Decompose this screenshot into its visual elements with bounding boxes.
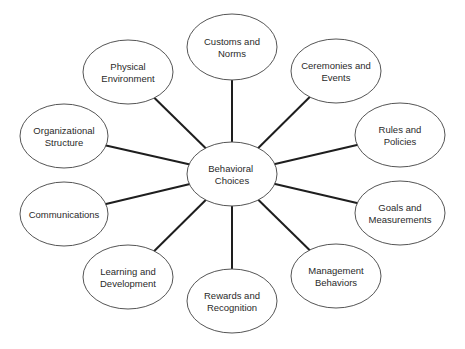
node-label-line-2: Norms	[218, 48, 246, 59]
node-label-line-2: Recognition	[207, 302, 257, 313]
node-label-line-1: Ceremonies and	[301, 60, 371, 71]
node-label-line-2: Policies	[384, 136, 417, 147]
node-customs-and-norms: Customs andNorms	[187, 14, 277, 80]
node-label: Learning andDevelopment	[100, 266, 156, 289]
node-label-line-1: Rewards and	[204, 290, 260, 301]
node-label-line-2: Development	[100, 278, 156, 289]
node-rewards-and-recognition: Rewards andRecognition	[187, 269, 277, 333]
node-label-line-1: Customs and	[204, 36, 260, 47]
behavioral-choices-diagram: Customs andNormsCeremonies andEventsRule…	[0, 0, 465, 349]
center-label: Behavioral Choices	[208, 163, 256, 186]
node-label-line-2: Environment	[101, 73, 155, 84]
node-label-line-1: Goals and	[378, 202, 421, 213]
node-label: Rewards andRecognition	[204, 290, 260, 313]
node-physical-environment: PhysicalEnvironment	[83, 40, 173, 104]
node-label: ManagementBehaviors	[308, 265, 364, 288]
node-label-line-2: Structure	[45, 137, 84, 148]
node-label: Rules andPolicies	[379, 124, 422, 147]
center-node-behavioral-choices: Behavioral Choices	[187, 142, 277, 206]
node-communications: Communications	[20, 182, 108, 246]
node-label-line-2: Events	[321, 72, 350, 83]
node-goals-and-measurements: Goals andMeasurements	[355, 181, 445, 245]
node-label: Communications	[29, 209, 100, 220]
node-learning-and-development: Learning andDevelopment	[83, 245, 173, 309]
node-label-line-2: Behaviors	[315, 277, 357, 288]
center-label-line-1: Behavioral	[208, 163, 253, 174]
node-label-line-1: Physical	[110, 61, 145, 72]
node-label-line-1: Management	[308, 265, 364, 276]
node-label-line-1: Rules and	[379, 124, 422, 135]
node-label-line-1: Communications	[29, 209, 100, 220]
center-label-line-2: Choices	[215, 175, 250, 186]
node-management-behaviors: ManagementBehaviors	[291, 244, 381, 308]
node-organizational-structure: OrganizationalStructure	[20, 104, 108, 168]
node-rules-and-policies: Rules andPolicies	[355, 103, 445, 167]
node-label-line-1: Learning and	[100, 266, 155, 277]
node-label-line-1: Organizational	[33, 125, 94, 136]
node-ceremonies-and-events: Ceremonies andEvents	[291, 39, 381, 103]
node-label-line-2: Measurements	[369, 214, 432, 225]
